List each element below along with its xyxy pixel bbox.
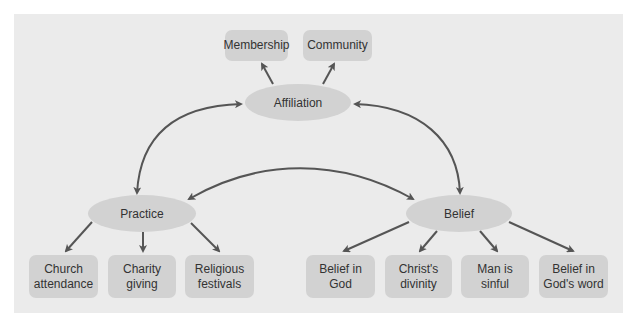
node-label: Belief in God bbox=[319, 262, 362, 292]
arrow-belief-sinful bbox=[480, 231, 497, 251]
node-label: Practice bbox=[120, 207, 163, 221]
node-belief-in-gods-word: Belief in God's word bbox=[539, 255, 608, 298]
node-label: Belief in God's word bbox=[543, 262, 603, 292]
node-label: Christ's divinity bbox=[399, 262, 439, 292]
node-label: Charity giving bbox=[123, 262, 161, 292]
node-belief: Belief bbox=[406, 195, 512, 232]
node-man-is-sinful: Man is sinful bbox=[461, 255, 529, 298]
node-label: Membership bbox=[223, 38, 289, 53]
node-belief-in-god: Belief in God bbox=[306, 255, 375, 298]
node-affiliation: Affiliation bbox=[245, 84, 351, 121]
arrow-affiliation-community bbox=[323, 64, 334, 84]
arrow-practice-church bbox=[66, 222, 92, 251]
node-label: Community bbox=[307, 38, 368, 53]
arrow-affiliation-practice bbox=[137, 104, 241, 193]
node-charity-giving: Charity giving bbox=[108, 255, 176, 298]
arrow-practice-belief bbox=[189, 168, 413, 199]
node-religious-festivals: Religious festivals bbox=[185, 255, 254, 298]
node-label: Religious festivals bbox=[195, 262, 244, 292]
node-label: Affiliation bbox=[274, 96, 322, 110]
arrow-practice-festivals bbox=[191, 223, 219, 251]
arrow-belief-godsword bbox=[509, 222, 573, 251]
node-church-attendance: Church attendance bbox=[29, 255, 98, 298]
node-label: Man is sinful bbox=[477, 262, 512, 292]
node-label: Belief bbox=[444, 207, 474, 221]
arrow-belief-god bbox=[344, 222, 409, 251]
arrow-belief-christ bbox=[420, 231, 437, 251]
arrow-affiliation-membership bbox=[262, 64, 273, 84]
node-community: Community bbox=[303, 30, 372, 61]
node-practice: Practice bbox=[88, 195, 196, 232]
node-membership: Membership bbox=[225, 30, 288, 61]
node-christs-divinity: Christ's divinity bbox=[385, 255, 452, 298]
node-label: Church attendance bbox=[34, 262, 93, 292]
